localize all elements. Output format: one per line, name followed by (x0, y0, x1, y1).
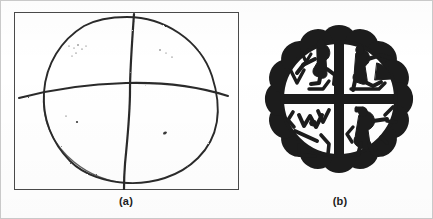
hand-drawn-sketch (14, 12, 239, 190)
panel-a: (a) (7, 5, 245, 216)
pottery-rosette-design (255, 11, 423, 187)
scan-specks (65, 44, 172, 135)
panel-b: (b) (251, 5, 429, 216)
horizontal-divider-stroke (19, 83, 228, 98)
vertical-divider-stroke (124, 14, 134, 190)
panel-a-caption: (a) (7, 195, 245, 207)
figure-container: (a) (0, 0, 433, 219)
panel-b-caption: (b) (251, 195, 429, 207)
circle-outline-overdraw (44, 96, 128, 183)
